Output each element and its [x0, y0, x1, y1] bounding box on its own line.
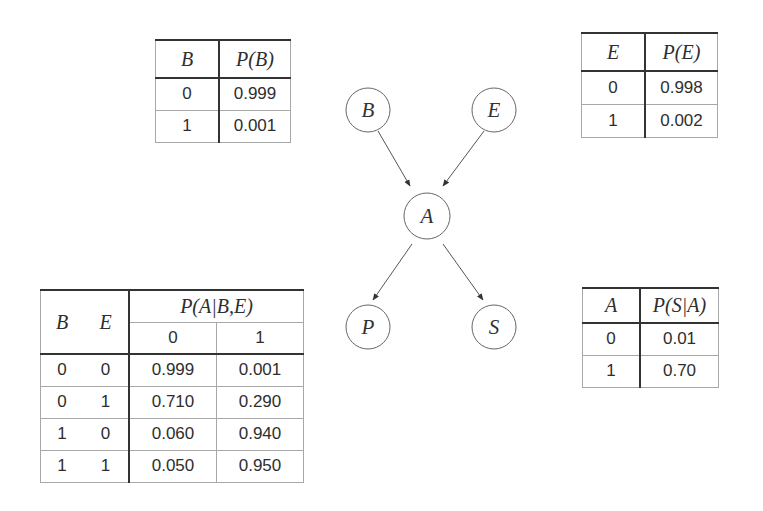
cpt-table-b: B P(B) 0 0.999 1 0.001 — [155, 39, 291, 143]
cell-p-b: 0.001 — [219, 110, 291, 142]
cell-a-1: 0.290 — [217, 386, 304, 418]
cell-b: 0 — [41, 386, 84, 418]
cell-p-e: 0.998 — [645, 71, 718, 104]
header-a-0: 0 — [129, 322, 217, 354]
cell-p-b: 0.999 — [219, 78, 291, 110]
edge-e-to-a — [443, 131, 484, 186]
cell-a-1: 0.001 — [217, 354, 304, 386]
table-row: 1 0 0.060 0.940 — [41, 418, 304, 450]
cell-e: 1 — [83, 386, 129, 418]
node-s: S — [472, 305, 516, 349]
cell-p-e: 0.002 — [645, 104, 718, 137]
cell-b-value: 0 — [156, 78, 220, 110]
cell-e: 1 — [83, 450, 129, 482]
edge-a-to-p — [373, 244, 412, 300]
header-b: B — [156, 40, 220, 78]
table-row: 0 1 0.710 0.290 — [41, 386, 304, 418]
header-a-1: 1 — [217, 322, 304, 354]
node-s-label: S — [489, 315, 500, 339]
edge-b-to-a — [378, 131, 410, 186]
cell-a-value: 0 — [583, 323, 641, 355]
cell-a-0: 0.710 — [129, 386, 217, 418]
cpt-table-e: E P(E) 0 0.998 1 0.002 — [581, 32, 718, 138]
cell-a-value: 1 — [583, 355, 641, 387]
node-a: A — [404, 193, 450, 239]
cell-e-value: 0 — [582, 71, 646, 104]
table-row: 1 1 0.050 0.950 — [41, 450, 304, 482]
edge-a-to-s — [443, 244, 483, 300]
node-b: B — [346, 88, 390, 132]
cell-e-value: 1 — [582, 104, 646, 137]
cell-b: 1 — [41, 450, 84, 482]
node-p: P — [346, 305, 390, 349]
cell-b-value: 1 — [156, 110, 220, 142]
cell-p-s: 0.70 — [640, 355, 719, 387]
header-p-b: P(B) — [219, 40, 291, 78]
cell-b: 1 — [41, 418, 84, 450]
node-e-label: E — [487, 98, 501, 122]
node-p-label: P — [361, 315, 375, 339]
cell-a-1: 0.950 — [217, 450, 304, 482]
node-a-label: A — [419, 204, 434, 228]
cell-e: 0 — [83, 354, 129, 386]
cell-e: 0 — [83, 418, 129, 450]
cpt-table-a: B E P(A|B,E) 0 1 0 0 0.999 0.001 0 1 0.7… — [40, 289, 304, 483]
cell-a-0: 0.050 — [129, 450, 217, 482]
node-e: E — [472, 88, 516, 132]
header-e: E — [83, 290, 129, 354]
cell-a-0: 0.999 — [129, 354, 217, 386]
header-p-e: P(E) — [645, 33, 718, 71]
header-p-s-given-a: P(S|A) — [640, 288, 719, 323]
node-b-label: B — [362, 98, 375, 122]
cell-a-0: 0.060 — [129, 418, 217, 450]
header-b: B — [41, 290, 84, 354]
table-row: 0 0 0.999 0.001 — [41, 354, 304, 386]
header-a: A — [583, 288, 641, 323]
cell-b: 0 — [41, 354, 84, 386]
cpt-table-s: A P(S|A) 0 0.01 1 0.70 — [582, 287, 719, 388]
header-e: E — [582, 33, 646, 71]
header-p-a-given-b-e: P(A|B,E) — [129, 290, 304, 322]
cell-p-s: 0.01 — [640, 323, 719, 355]
cell-a-1: 0.940 — [217, 418, 304, 450]
